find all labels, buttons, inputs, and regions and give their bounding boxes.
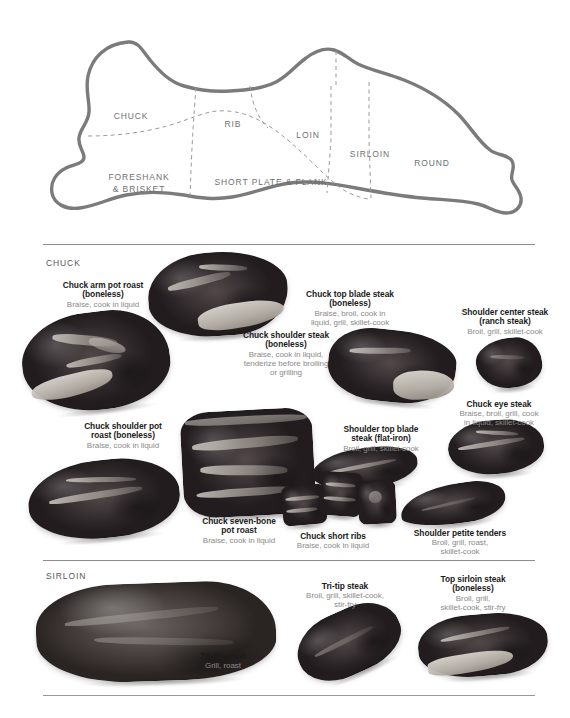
cut-methods: Broil, grill, roast,skillet-cook [395,539,525,557]
cut-name: Tri-tip roast [168,652,278,661]
caption-chuck-arm-pot-roast: Chuck arm pot roast(boneless) Braise, co… [28,281,178,310]
diagram-label-brisket: & BRISKET [113,184,166,194]
photo-chuck-shoulder-pot-roast [24,452,183,545]
section-divider-top [43,244,535,245]
cut-name: Shoulder petite tenders [395,529,525,538]
cut-methods: Braise, cook in liquid [28,301,178,310]
diagram-label-sirloin: SIRLOIN [350,149,390,159]
cut-name: Chuck shoulder steak(boneless) [218,331,354,350]
section-divider-middle [43,560,535,561]
section-divider-bottom [43,695,535,696]
diagram-label-chuck: CHUCK [114,111,149,121]
cut-name: Chuck eye steak [434,400,564,409]
caption-chuck-short-ribs: Chuck short ribs Braise, cook in liquid [272,532,394,551]
cut-methods: Braise, cook in liquid [272,542,394,551]
cut-name: Top sirloin steak(boneless) [410,575,536,594]
caption-shoulder-petite-tenders: Shoulder petite tenders Broil, grill, ro… [395,529,525,557]
photo-shoulder-center-steak [474,335,545,392]
diagram-label-foreshank: FORESHANK [109,172,170,182]
cut-methods: Braise, broil, grill, cookin liquid, ski… [434,410,564,428]
cut-name: Shoulder top bladesteak (flat-iron) [320,425,442,444]
caption-shoulder-top-blade-steak: Shoulder top bladesteak (flat-iron) Broi… [320,425,442,454]
cut-name: Chuck top blade steak(boneless) [282,290,418,309]
cut-methods: Braise, broil, cook inliquid, grill, ski… [282,310,418,328]
diagram-label-round: ROUND [414,158,450,168]
cut-methods: Broil, grill, skillet-cook,stir-fry [286,592,404,610]
photo-top-sirloin-steak [416,608,551,681]
diagram-label-short-plate-flank: SHORT PLATE & FLANK [215,177,328,187]
diagram-label-rib: RIB [225,119,242,129]
cut-name: Shoulder center steak(ranch steak) [440,308,570,327]
cut-name: Chuck arm pot roast(boneless) [28,281,178,300]
cut-name: Chuck short ribs [272,532,394,541]
cut-methods: Broil, grill, skillet-cook [440,328,570,337]
caption-shoulder-center-steak: Shoulder center steak(ranch steak) Broil… [440,308,570,337]
photo-chuck-short-ribs-3 [357,479,397,525]
cut-name: Chuck shoulder potroast (boneless) [58,422,188,441]
section-title-sirloin: SIRLOIN [46,571,86,581]
section-title-chuck: CHUCK [46,258,81,268]
beef-cuts-chart-page: CHUCK RIB LOIN SIRLOIN ROUND FORESHANK &… [0,0,570,718]
cut-methods: Broil, grill, skillet-cook [320,445,442,454]
cut-methods: Broil, grill,skillet-cook, stir-fry [410,595,536,613]
caption-top-sirloin-steak: Top sirloin steak(boneless) Broil, grill… [410,575,536,613]
caption-chuck-eye-steak: Chuck eye steak Braise, broil, grill, co… [434,400,564,428]
cut-name: Tri-tip steak [286,582,404,591]
diagram-label-loin: LOIN [296,130,319,140]
caption-tri-tip-roast: Tri-tip roast Grill, roast [168,652,278,671]
beef-carcass-diagram: CHUCK RIB LOIN SIRLOIN ROUND FORESHANK &… [0,20,570,220]
caption-tri-tip-steak: Tri-tip steak Broil, grill, skillet-cook… [286,582,404,610]
caption-chuck-top-blade-steak: Chuck top blade steak(boneless) Braise, … [282,290,418,328]
cut-methods: Grill, roast [168,662,278,671]
caption-chuck-shoulder-steak: Chuck shoulder steak(boneless) Braise, c… [218,331,354,378]
cut-methods: Braise, cook in liquid [58,442,188,451]
cut-methods: Braise, cook in liquid,tenderize before … [218,351,354,378]
caption-chuck-shoulder-pot-roast: Chuck shoulder potroast (boneless) Brais… [58,422,188,451]
